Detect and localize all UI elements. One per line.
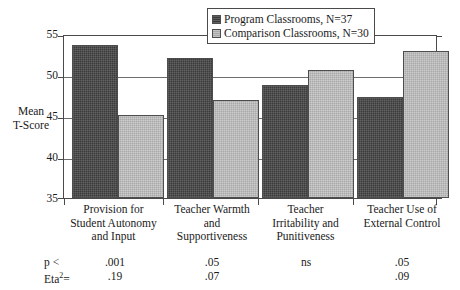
gridline-50 <box>64 77 436 78</box>
legend-label-comparison: Comparison Classrooms, N=30 <box>224 27 369 39</box>
eta-squared-row-label: Eta2= <box>44 270 70 285</box>
p-value-row-label: p < <box>44 256 59 268</box>
legend-item-program: Program Classrooms, N=37 <box>212 12 369 26</box>
y-tick-45-left <box>58 118 64 119</box>
p-value-group4: .05 <box>362 256 442 268</box>
category-label-3-line3: Punitiveness <box>249 230 362 244</box>
category-label-3-line2: Irritability and <box>249 217 362 231</box>
category-label-3: Teacher Irritability and Punitiveness <box>249 203 362 244</box>
bar-comparison-group1 <box>118 115 164 198</box>
eta-label-equals: = <box>63 273 70 285</box>
p-value-group3: ns <box>266 256 346 268</box>
bar-comparison-group4 <box>403 51 449 198</box>
bar-comparison-group2 <box>213 100 259 198</box>
y-tick-55-left <box>58 36 64 37</box>
eta-value-group1: .19 <box>75 270 155 282</box>
legend-item-comparison: Comparison Classrooms, N=30 <box>212 26 369 40</box>
y-tick-50-left <box>58 77 64 78</box>
bar-program-group3 <box>262 85 308 198</box>
y-tick-55-right <box>436 36 442 37</box>
bar-program-group2 <box>167 58 213 198</box>
bar-program-group4 <box>357 97 403 198</box>
eta-value-group4: .09 <box>362 270 442 282</box>
plot-area <box>63 35 437 199</box>
bar-program-group1 <box>72 45 118 198</box>
chart-legend: Program Classrooms, N=37 Comparison Clas… <box>207 8 375 44</box>
p-value-group1: .001 <box>75 256 155 268</box>
category-label-4-line1: Teacher Use of <box>347 203 457 217</box>
y-tick-label-55: 55 <box>32 29 58 41</box>
y-tick-label-35: 35 <box>32 193 58 205</box>
y-tick-40-left <box>58 159 64 160</box>
y-tick-label-50: 50 <box>32 70 58 82</box>
bar-chart-figure: Mean T-Score 55 50 45 40 35 <box>0 0 460 290</box>
legend-label-program: Program Classrooms, N=37 <box>224 13 352 25</box>
eta-value-group2: .07 <box>172 270 252 282</box>
p-value-group2: .05 <box>172 256 252 268</box>
eta-label-text: Eta <box>44 273 59 285</box>
category-label-4-line2: External Control <box>347 217 457 231</box>
category-label-3-line1: Teacher <box>249 203 362 217</box>
legend-swatch-program-icon <box>212 15 221 24</box>
category-label-4: Teacher Use of External Control <box>347 203 457 230</box>
y-tick-label-45: 45 <box>32 111 58 123</box>
y-tick-label-40: 40 <box>32 152 58 164</box>
bar-comparison-group3 <box>308 70 354 198</box>
legend-swatch-comparison-icon <box>212 29 221 38</box>
